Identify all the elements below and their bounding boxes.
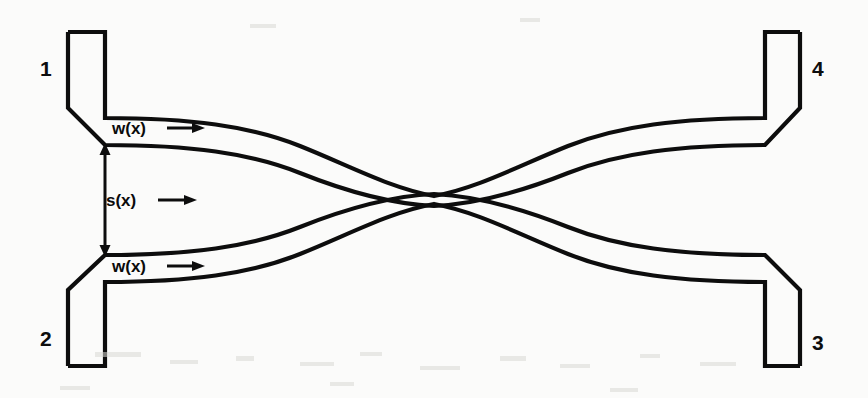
annotation-width-top: w(x) [112, 120, 146, 137]
bottom-waveguide-outer-edge [68, 204, 800, 366]
annotation-width-bottom: w(x) [112, 258, 146, 275]
port-label-1: 1 [40, 58, 51, 79]
separation-arrow [158, 195, 197, 205]
bottom-waveguide [68, 194, 800, 366]
figure-canvas: 1 2 3 4 w(x) w(x) s(x) [0, 0, 868, 398]
port-label-4: 4 [812, 58, 823, 79]
annotation-separation: s(x) [106, 192, 136, 209]
port-label-2: 2 [40, 328, 51, 349]
top-waveguide-outer-edge [68, 32, 800, 196]
bottom-width-arrow [167, 261, 205, 271]
arrow-right-head-icon [184, 195, 197, 205]
arrow-right-head-icon [192, 261, 205, 271]
port-label-3: 3 [812, 332, 823, 353]
